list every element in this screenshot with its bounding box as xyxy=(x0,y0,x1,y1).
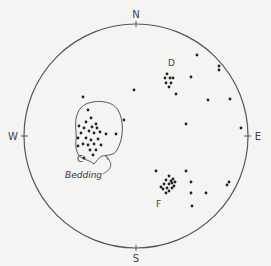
pole-point xyxy=(123,119,126,122)
pole-point-cluster-f xyxy=(172,178,175,181)
pole-point-cluster-f xyxy=(168,190,171,193)
stereonet-diagram: N S W E C D F Bedding xyxy=(0,0,271,266)
pole-point-cluster-c xyxy=(88,130,91,133)
pole-point xyxy=(196,54,199,57)
pole-point-cluster-c xyxy=(80,132,83,135)
pole-point-cluster-f xyxy=(170,180,173,183)
pole-point xyxy=(218,69,221,72)
pole-point-cluster-c xyxy=(83,127,86,130)
pole-point xyxy=(240,127,243,130)
pole-point xyxy=(190,192,193,195)
pole-point-cluster-c xyxy=(92,154,95,157)
east-label: E xyxy=(255,131,261,142)
cluster-label-f: F xyxy=(156,199,161,209)
pole-point xyxy=(115,133,118,136)
pole-point-cluster-d xyxy=(166,73,169,76)
pole-point-cluster-c xyxy=(85,137,88,140)
pole-point-cluster-f xyxy=(165,192,168,195)
pole-point xyxy=(226,184,229,187)
pole-point xyxy=(185,170,188,173)
pole-point-cluster-c xyxy=(99,131,102,134)
pole-point xyxy=(228,181,231,184)
pole-point-cluster-d xyxy=(172,77,175,80)
pole-point-cluster-f xyxy=(168,175,171,178)
pole-point-cluster-c xyxy=(105,133,108,136)
pole-point xyxy=(185,123,188,126)
pole-point xyxy=(218,65,221,68)
pole-point xyxy=(191,205,194,208)
pole-point-cluster-f xyxy=(163,183,166,186)
pole-point-cluster-c xyxy=(89,149,92,152)
pole-point xyxy=(175,93,178,96)
pole-point-cluster-d xyxy=(165,82,168,85)
pole-point-cluster-c xyxy=(78,125,81,128)
pole-point-cluster-f xyxy=(168,183,171,186)
pole-point xyxy=(190,76,193,79)
pole-point xyxy=(205,192,208,195)
pole-point-cluster-d xyxy=(164,77,167,80)
pole-point xyxy=(133,89,136,92)
pole-point-cluster-d xyxy=(169,77,172,80)
pole-point-cluster-d xyxy=(168,86,171,89)
pole-point-cluster-c xyxy=(93,132,96,135)
pole-point-cluster-f xyxy=(166,187,169,190)
pole-point-cluster-c xyxy=(91,126,94,129)
bedding-label: Bedding xyxy=(65,170,102,180)
pole-point-cluster-d xyxy=(170,82,173,85)
south-label: S xyxy=(133,253,139,264)
cluster-label-c: C xyxy=(77,154,83,164)
pole-point-cluster-c xyxy=(85,121,88,124)
pole-point-cluster-f xyxy=(165,179,168,182)
pole-point-cluster-c xyxy=(93,143,96,146)
pole-point-cluster-f xyxy=(171,187,174,190)
arrow-head-icon xyxy=(105,156,108,160)
pole-point xyxy=(229,98,232,101)
primitive-circle xyxy=(24,24,248,248)
pole-point xyxy=(155,170,158,173)
pole-point-cluster-c xyxy=(77,137,80,140)
pole-point-cluster-c xyxy=(90,139,93,142)
west-label: W xyxy=(8,131,18,142)
pole-point-cluster-c xyxy=(77,145,80,148)
pole-point-cluster-c xyxy=(96,127,99,130)
pole-point-cluster-f xyxy=(160,186,163,189)
pole-point-cluster-c xyxy=(83,157,86,160)
pole-point-cluster-c xyxy=(82,143,85,146)
pole-point-cluster-c xyxy=(87,109,90,112)
pole-point xyxy=(190,181,193,184)
north-label: N xyxy=(132,9,139,20)
poles-layer xyxy=(77,54,243,208)
pole-point-cluster-c xyxy=(100,144,103,147)
pole-point-cluster-f xyxy=(174,181,177,184)
cluster-label-d: D xyxy=(168,58,175,68)
pole-point-cluster-c xyxy=(95,123,98,126)
pole-point-cluster-c xyxy=(95,149,98,152)
bedding-arrow xyxy=(103,157,111,174)
pole-point-cluster-c xyxy=(90,117,93,120)
pole-point-cluster-f xyxy=(162,188,165,191)
pole-point xyxy=(207,99,210,102)
pole-point xyxy=(82,96,85,99)
pole-point-cluster-c xyxy=(97,138,100,141)
pole-point-cluster-c xyxy=(87,144,90,147)
pole-point-cluster-f xyxy=(173,185,176,188)
